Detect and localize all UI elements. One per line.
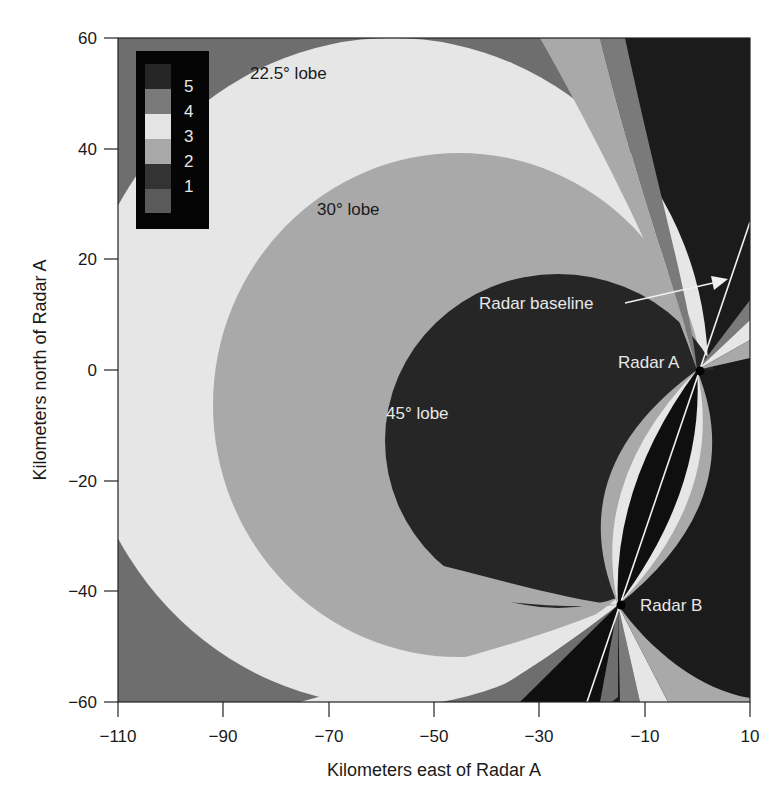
y-tick-40: 40	[78, 140, 97, 159]
legend-swatch-0	[145, 189, 171, 213]
label-lobe-22-5: 22.5° lobe	[250, 64, 327, 83]
y-tick-0: 0	[88, 361, 97, 380]
legend-label-4: 4	[184, 102, 193, 121]
radar-b-marker	[617, 601, 626, 610]
y-tick-60: 60	[78, 29, 97, 48]
x-tick-10: 10	[741, 727, 760, 746]
legend: 5 4 3 2 1	[136, 51, 209, 229]
plot-area: 22.5° lobe 30° lobe 45° lobe Radar basel…	[0, 0, 775, 788]
y-tick-neg60: −60	[68, 693, 97, 712]
x-tick-neg110: −110	[99, 727, 136, 746]
legend-label-5: 5	[184, 77, 193, 96]
y-tick-neg40: −40	[68, 582, 97, 601]
legend-label-2: 2	[184, 152, 193, 171]
x-tick-neg90: −90	[209, 727, 238, 746]
x-tick-neg10: −10	[631, 727, 660, 746]
legend-label-3: 3	[184, 127, 193, 146]
y-tick-neg20: −20	[68, 472, 97, 491]
y-axis: 60 40 20 0 −20 −40 −60 Kilometers north …	[30, 29, 118, 712]
radar-a-marker	[696, 367, 705, 376]
x-tick-neg50: −50	[420, 727, 449, 746]
y-tick-20: 20	[78, 250, 97, 269]
legend-label-1: 1	[184, 177, 193, 196]
radar-lobe-chart: 22.5° lobe 30° lobe 45° lobe Radar basel…	[0, 0, 784, 807]
x-tick-neg70: −70	[315, 727, 344, 746]
label-radar-a: Radar A	[618, 353, 680, 372]
legend-swatch-2	[145, 139, 171, 164]
y-axis-title: Kilometers north of Radar A	[30, 259, 50, 480]
label-radar-baseline: Radar baseline	[479, 294, 593, 313]
label-lobe-45: 45° lobe	[386, 404, 449, 423]
legend-swatch-5	[145, 64, 171, 89]
x-axis-title: Kilometers east of Radar A	[327, 760, 541, 780]
legend-swatch-4	[145, 89, 171, 114]
legend-swatch-3	[145, 114, 171, 139]
x-tick-neg30: −30	[525, 727, 554, 746]
label-lobe-30: 30° lobe	[317, 200, 380, 219]
x-axis: −110 −90 −70 −50 −30 −10 10 Kilometers e…	[99, 702, 759, 780]
legend-swatch-1	[145, 164, 171, 189]
label-radar-b: Radar B	[640, 596, 702, 615]
